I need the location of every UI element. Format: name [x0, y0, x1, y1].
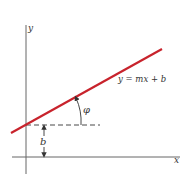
y-axis-label: y	[27, 23, 34, 33]
line-equation-label: y = mx + b	[117, 74, 166, 84]
x-axis-label: x	[174, 155, 179, 165]
angle-phi-label: φ	[83, 104, 90, 115]
line-diagram: y x φ b y = mx + b	[0, 0, 188, 186]
linear-function-line	[11, 49, 162, 133]
intercept-b-label: b	[40, 136, 46, 147]
angle-arc	[76, 98, 81, 125]
